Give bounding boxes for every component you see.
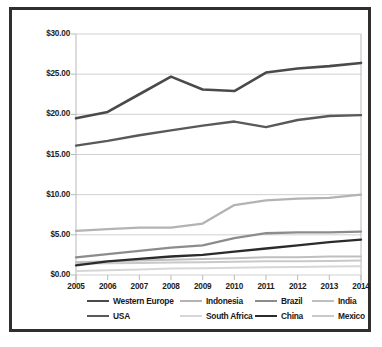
x-axis-tick-label: 2012 [283, 282, 313, 291]
legend-swatch-icon [180, 315, 202, 317]
y-axis-tick-label: $15.00 [18, 150, 70, 159]
chart-card: $0.00$5.00$10.00$15.00$20.00$25.00$30.00… [9, 7, 371, 332]
legend-row: USASouth AfricaChinaMexico [12, 308, 368, 323]
legend-swatch-icon [87, 300, 109, 302]
x-axis-tick-label: 2007 [124, 282, 154, 291]
series-line-usa [76, 115, 361, 146]
series-line-indonesia [76, 195, 361, 231]
y-axis-tick-label: $5.00 [18, 230, 70, 239]
x-axis-tick-label: 2006 [93, 282, 123, 291]
legend-label: Brazil [281, 296, 302, 306]
legend-swatch-icon [255, 315, 277, 317]
x-axis-tick-label: 2013 [314, 282, 344, 291]
x-axis-tick-label: 2009 [188, 282, 218, 291]
legend-item-china[interactable]: China [255, 311, 303, 321]
legend-item-western-europe[interactable]: Western Europe [87, 296, 174, 306]
legend-label: USA [113, 311, 130, 321]
legend-swatch-icon [312, 300, 334, 302]
series-line-south-africa [76, 266, 361, 271]
legend-item-south-africa[interactable]: South Africa [180, 311, 252, 321]
y-axis-tick-label: $0.00 [18, 270, 70, 279]
legend-item-brazil[interactable]: Brazil [255, 296, 302, 306]
legend-item-india[interactable]: India [312, 296, 356, 306]
legend-item-indonesia[interactable]: Indonesia [180, 296, 243, 306]
legend-item-usa[interactable]: USA [87, 311, 130, 321]
x-axis-tick-label: 2008 [156, 282, 186, 291]
x-axis-tick-label: 2011 [251, 282, 281, 291]
legend-row: Western EuropeIndonesiaBrazilIndia [12, 293, 368, 308]
y-axis-tick-label: $20.00 [18, 109, 70, 118]
y-axis-tick-label: $30.00 [18, 29, 70, 38]
x-axis-tick-label: 2014 [346, 282, 376, 291]
legend-label: China [281, 311, 303, 321]
legend-label: Mexico [338, 311, 365, 321]
legend-swatch-icon [180, 300, 202, 302]
legend-label: South Africa [206, 311, 252, 321]
legend-item-mexico[interactable]: Mexico [312, 311, 365, 321]
legend-label: India [338, 296, 356, 306]
legend-label: Indonesia [206, 296, 243, 306]
legend-swatch-icon [255, 300, 277, 302]
x-axis-tick-label: 2010 [219, 282, 249, 291]
y-axis-tick-label: $25.00 [18, 69, 70, 78]
legend-label: Western Europe [113, 296, 174, 306]
y-axis-tick-label: $10.00 [18, 190, 70, 199]
legend-swatch-icon [312, 315, 334, 317]
series-line-western-europe [76, 63, 361, 118]
x-axis-tick-label: 2005 [61, 282, 91, 291]
legend-swatch-icon [87, 315, 109, 317]
plot-area: $0.00$5.00$10.00$15.00$20.00$25.00$30.00… [12, 10, 368, 329]
chart-legend: Western EuropeIndonesiaBrazilIndiaUSASou… [12, 293, 368, 323]
